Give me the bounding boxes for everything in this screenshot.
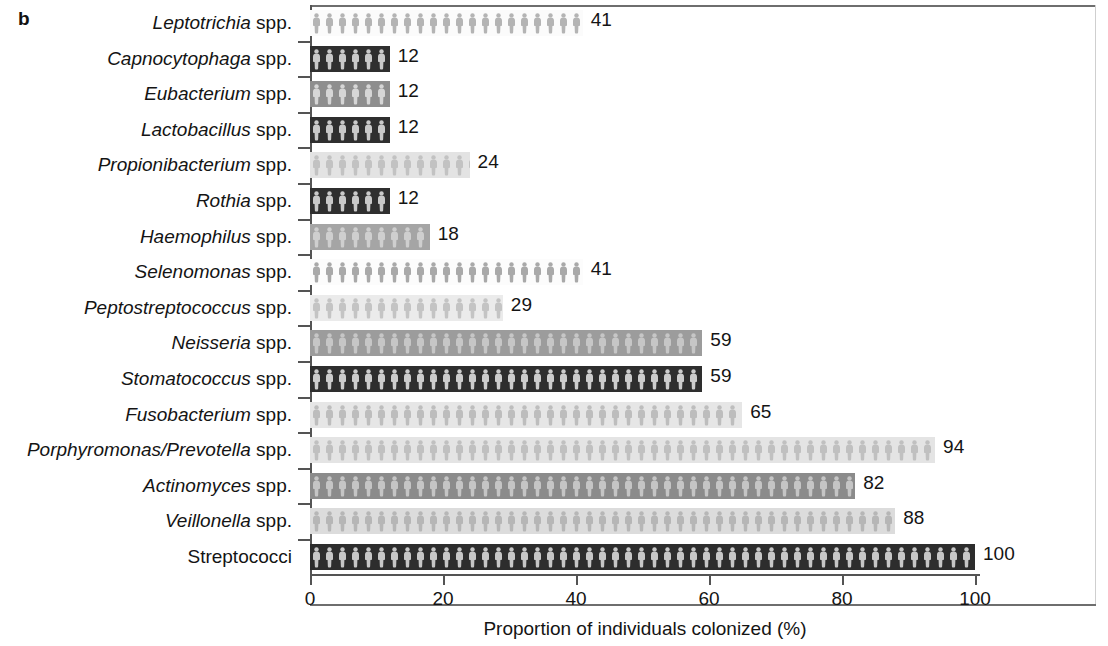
- bar-row: Actinomyces spp.82: [0, 468, 1096, 504]
- bar-value-label: 12: [398, 187, 419, 209]
- category-suffix: spp.: [251, 154, 292, 175]
- category-suffix: spp.: [251, 12, 292, 33]
- category-genus: Stomatococcus: [121, 368, 251, 389]
- bar-row: Eubacterium spp.12: [0, 76, 1096, 112]
- bar: [310, 81, 390, 107]
- bar: [310, 259, 583, 285]
- category-genus: Capnocytophaga: [107, 48, 251, 69]
- category-label: Selenomonas spp.: [0, 254, 300, 290]
- category-suffix: spp.: [251, 475, 292, 496]
- bar-row: Capnocytophaga spp.12: [0, 41, 1096, 77]
- category-label: Porphyromonas/Prevotella spp.: [0, 432, 300, 468]
- x-axis-tick-label: 60: [698, 588, 719, 610]
- bar: [310, 295, 503, 321]
- y-axis-tick: [298, 468, 310, 470]
- bar: [310, 117, 390, 143]
- category-genus: Lactobacillus: [141, 119, 251, 140]
- category-label: Veillonella spp.: [0, 503, 300, 539]
- y-axis-tick: [298, 290, 310, 292]
- category-suffix: spp.: [251, 297, 292, 318]
- x-axis-tick: [975, 574, 977, 585]
- category-suffix: spp.: [251, 119, 292, 140]
- bar: [310, 10, 583, 36]
- category-genus: Streptococci: [187, 546, 292, 567]
- x-axis-tick-label: 100: [959, 588, 991, 610]
- bar-row: Selenomonas spp.41: [0, 254, 1096, 290]
- category-genus: Rothia: [196, 190, 251, 211]
- category-suffix: spp.: [251, 439, 292, 460]
- y-axis-tick: [298, 112, 310, 114]
- bar-row: Haemophilus spp.18: [0, 219, 1096, 255]
- category-label: Peptostreptococcus spp.: [0, 290, 300, 326]
- bar-row: Leptotrichia spp.41: [0, 5, 1096, 41]
- category-genus: Neisseria: [172, 332, 251, 353]
- y-axis-tick: [298, 325, 310, 327]
- y-axis-tick: [298, 76, 310, 78]
- bar-value-label: 88: [903, 507, 924, 529]
- y-axis-tick: [298, 147, 310, 149]
- category-genus: Porphyromonas/Prevotella: [27, 439, 251, 460]
- bar-value-label: 41: [591, 258, 612, 280]
- y-axis-tick: [298, 503, 310, 505]
- category-label: Actinomyces spp.: [0, 468, 300, 504]
- category-genus: Eubacterium: [144, 83, 251, 104]
- category-label: Fusobacterium spp.: [0, 397, 300, 433]
- bar-value-label: 65: [750, 401, 771, 423]
- bar-value-label: 12: [398, 45, 419, 67]
- bar-value-label: 59: [710, 365, 731, 387]
- y-axis-tick: [298, 41, 310, 43]
- bar: [310, 508, 895, 534]
- bar: [310, 366, 702, 392]
- category-label: Haemophilus spp.: [0, 219, 300, 255]
- category-label: Propionibacterium spp.: [0, 147, 300, 183]
- category-label: Leptotrichia spp.: [0, 5, 300, 41]
- bar: [310, 402, 742, 428]
- category-genus: Selenomonas: [135, 261, 251, 282]
- x-axis-tick: [443, 574, 445, 585]
- y-axis-tick: [298, 539, 310, 541]
- category-label: Rothia spp.: [0, 183, 300, 219]
- bar-row: Neisseria spp.59: [0, 325, 1096, 361]
- category-suffix: spp.: [251, 48, 292, 69]
- bar-value-label: 18: [438, 223, 459, 245]
- category-genus: Haemophilus: [140, 226, 251, 247]
- bar-value-label: 59: [710, 329, 731, 351]
- category-suffix: spp.: [251, 404, 292, 425]
- bar-value-label: 94: [943, 436, 964, 458]
- y-axis-tick: [298, 397, 310, 399]
- category-label: Lactobacillus spp.: [0, 112, 300, 148]
- bar: [310, 544, 975, 570]
- x-axis-title: Proportion of individuals colonized (%): [310, 618, 980, 640]
- category-genus: Veillonella: [165, 510, 251, 531]
- bar: [310, 437, 935, 463]
- x-axis-tick-label: 0: [305, 588, 316, 610]
- category-genus: Propionibacterium: [98, 154, 251, 175]
- category-genus: Peptostreptococcus: [84, 297, 251, 318]
- category-suffix: spp.: [251, 510, 292, 531]
- bar-value-label: 100: [983, 543, 1015, 565]
- y-axis-tick: [298, 361, 310, 363]
- category-genus: Leptotrichia: [153, 12, 251, 33]
- x-axis-tick-label: 40: [565, 588, 586, 610]
- y-axis-tick: [298, 183, 310, 185]
- category-label: Stomatococcus spp.: [0, 361, 300, 397]
- bar-value-label: 12: [398, 80, 419, 102]
- bar-value-label: 12: [398, 116, 419, 138]
- y-axis-tick: [298, 254, 310, 256]
- bar: [310, 152, 470, 178]
- x-axis-tick: [709, 574, 711, 585]
- category-genus: Fusobacterium: [125, 404, 251, 425]
- category-label: Streptococci: [0, 539, 300, 575]
- category-suffix: spp.: [251, 83, 292, 104]
- bar: [310, 46, 390, 72]
- x-axis-tick-label: 80: [831, 588, 852, 610]
- bar-row: Veillonella spp.88: [0, 503, 1096, 539]
- bar-value-label: 41: [591, 9, 612, 31]
- bar-row: Lactobacillus spp.12: [0, 112, 1096, 148]
- bar-row: Stomatococcus spp.59: [0, 361, 1096, 397]
- bar-row: Streptococci100: [0, 539, 1096, 575]
- bar-row: Porphyromonas/Prevotella spp.94: [0, 432, 1096, 468]
- category-suffix: spp.: [251, 261, 292, 282]
- bar-value-label: 82: [863, 472, 884, 494]
- bar-value-label: 24: [478, 151, 499, 173]
